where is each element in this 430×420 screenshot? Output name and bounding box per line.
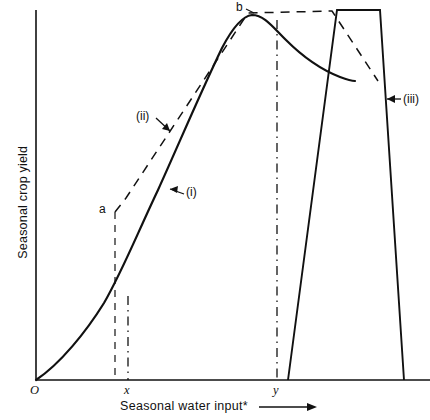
x-axis-label: Seasonal water input* bbox=[120, 400, 319, 413]
tick-label-origin: O bbox=[30, 384, 39, 397]
leader-curve-iii bbox=[387, 95, 401, 103]
tick-label-y: y bbox=[273, 384, 279, 397]
tick-label-x: x bbox=[124, 384, 130, 397]
x-axis-label-text: Seasonal water input* bbox=[120, 399, 248, 413]
y-axis-label: Seasonal crop yield bbox=[17, 137, 30, 267]
leader-curve-ii bbox=[156, 118, 170, 131]
annotation-curve-ii: (ii) bbox=[136, 110, 149, 122]
chart-figure: Seasonal crop yield Seasonal water input… bbox=[0, 0, 430, 420]
x-axis-arrow-icon bbox=[259, 402, 319, 412]
annotation-point-b: b bbox=[236, 1, 243, 13]
curve-ii-dashed bbox=[115, 11, 378, 212]
annotation-point-a: a bbox=[99, 203, 106, 215]
leader-curve-i bbox=[170, 186, 184, 194]
chart-canvas bbox=[0, 0, 430, 420]
curve-iii-trapezoid bbox=[288, 10, 404, 380]
annotation-curve-i: (i) bbox=[186, 186, 197, 198]
annotation-curve-iii: (iii) bbox=[403, 93, 419, 105]
